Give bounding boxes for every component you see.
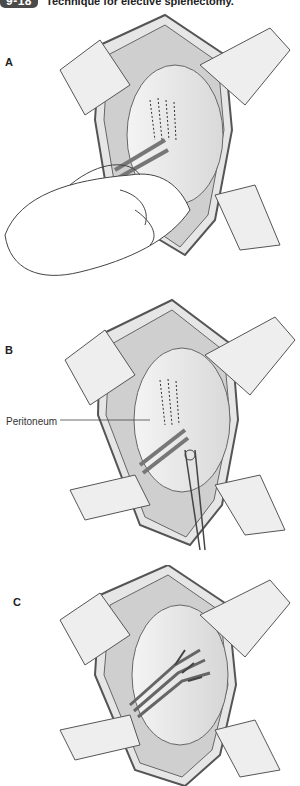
figure-header: 9-18 Technique for elective splenectomy. [0,0,234,8]
panel-b-illustration [0,295,300,560]
figure-number-badge: 9-18 [0,0,38,8]
figure-title: Technique for elective splenectomy. [46,0,234,8]
panel-c-illustration [0,565,300,786]
panel-a-illustration [0,10,300,285]
